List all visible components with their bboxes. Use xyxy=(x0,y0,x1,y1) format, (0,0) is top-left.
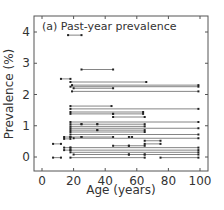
interval-endpoint xyxy=(197,154,199,156)
x-tick-label: 80 xyxy=(161,174,176,188)
interval-endpoint xyxy=(69,108,71,110)
interval-endpoint xyxy=(131,136,133,138)
interval-endpoint xyxy=(144,143,146,145)
interval-endpoint xyxy=(111,105,113,107)
interval-endpoint xyxy=(112,69,114,71)
interval-endpoint xyxy=(96,123,98,125)
interval-endpoint xyxy=(81,136,83,138)
interval-endpoint xyxy=(112,145,114,147)
interval-endpoint xyxy=(128,145,130,147)
interval-endpoint xyxy=(197,90,199,92)
y-tick-label: 4 xyxy=(22,25,30,39)
x-tick-label: 20 xyxy=(66,174,81,188)
interval-endpoint xyxy=(63,147,65,149)
interval-endpoint xyxy=(52,157,54,159)
interval-endpoint xyxy=(96,129,98,131)
interval-endpoint xyxy=(73,87,75,89)
interval-endpoint xyxy=(197,86,199,88)
x-tick-label: 100 xyxy=(189,174,212,188)
interval-endpoint xyxy=(73,154,75,156)
interval-endpoint xyxy=(60,143,62,145)
interval-endpoint xyxy=(63,136,65,138)
interval-endpoint xyxy=(69,131,71,133)
chart-title: (a) Past-year prevalence xyxy=(42,20,177,33)
interval-endpoint xyxy=(73,137,75,139)
interval-endpoint xyxy=(63,149,65,151)
interval-endpoint xyxy=(197,134,199,136)
interval-endpoint xyxy=(69,111,71,113)
interval-endpoint xyxy=(197,127,199,129)
interval-endpoint xyxy=(160,143,162,145)
interval-endpoint xyxy=(52,143,54,145)
interval-endpoint xyxy=(112,87,114,89)
interval-endpoint xyxy=(144,145,146,147)
interval-endpoint xyxy=(69,121,71,123)
interval-endpoint xyxy=(69,105,71,107)
y-tick-label: 0 xyxy=(22,150,30,164)
x-axis-label: Age (years) xyxy=(86,183,155,197)
interval-endpoint xyxy=(144,154,146,156)
interval-endpoint xyxy=(81,123,83,125)
interval-endpoint xyxy=(67,34,69,36)
interval-endpoint xyxy=(142,113,144,115)
interval-endpoint xyxy=(144,131,146,133)
interval-endpoint xyxy=(128,136,130,138)
y-tick-label: 2 xyxy=(22,88,30,102)
x-tick-label: 0 xyxy=(38,174,46,188)
interval-endpoint xyxy=(69,147,71,149)
interval-endpoint xyxy=(160,140,162,142)
interval-chart: 02040608010001234 (a) Past-year prevalen… xyxy=(0,0,224,210)
interval-endpoint xyxy=(145,81,147,83)
interval-endpoint xyxy=(69,81,71,83)
y-axis-label: Prevalence (%) xyxy=(2,49,16,139)
interval-endpoint xyxy=(69,134,71,136)
interval-endpoint xyxy=(63,138,65,140)
interval-endpoint xyxy=(69,113,71,115)
interval-endpoint xyxy=(144,157,146,159)
interval-endpoint xyxy=(69,157,71,159)
interval-endpoint xyxy=(197,147,199,149)
interval-endpoint xyxy=(160,157,162,159)
interval-endpoint xyxy=(112,113,114,115)
interval-endpoint xyxy=(81,69,83,71)
interval-endpoint xyxy=(197,121,199,123)
interval-endpoint xyxy=(71,90,73,92)
interval-endpoint xyxy=(69,129,71,131)
interval-endpoint xyxy=(144,129,146,131)
interval-endpoint xyxy=(112,116,114,118)
interval-endpoint xyxy=(128,154,130,156)
interval-endpoint xyxy=(69,125,71,127)
interval-endpoint xyxy=(144,125,146,127)
interval-endpoint xyxy=(197,151,199,153)
interval-endpoint xyxy=(81,34,83,36)
interval-endpoint xyxy=(144,116,146,118)
plot-area: 02040608010001234 xyxy=(22,16,211,188)
interval-endpoint xyxy=(112,136,114,138)
interval-endpoint xyxy=(69,78,71,80)
interval-endpoint xyxy=(69,127,71,129)
interval-endpoint xyxy=(69,149,71,151)
interval-endpoint xyxy=(69,138,71,140)
interval-endpoint xyxy=(69,123,71,125)
interval-endpoint xyxy=(197,137,199,139)
interval-endpoint xyxy=(144,123,146,125)
interval-endpoint xyxy=(69,151,71,153)
interval-endpoint xyxy=(69,136,71,138)
interval-endpoint xyxy=(60,78,62,80)
y-tick-label: 1 xyxy=(22,119,30,133)
interval-endpoint xyxy=(144,140,146,142)
interval-endpoint xyxy=(69,86,71,88)
y-tick-label: 3 xyxy=(22,56,30,70)
interval-endpoint xyxy=(197,157,199,159)
interval-endpoint xyxy=(60,157,62,159)
interval-endpoint xyxy=(197,149,199,151)
interval-endpoint xyxy=(142,111,144,113)
interval-endpoint xyxy=(197,108,199,110)
